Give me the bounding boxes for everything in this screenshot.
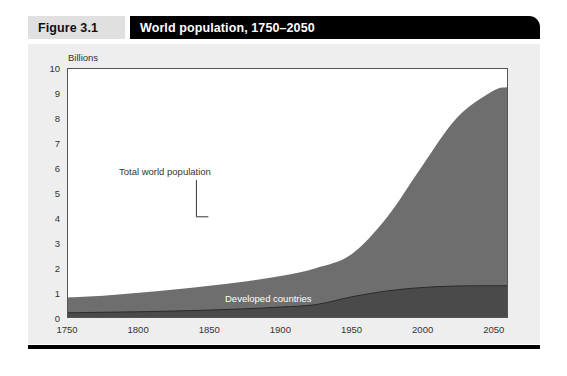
figure-number-box: Figure 3.1 xyxy=(28,16,125,39)
y-tick-label: 1 xyxy=(55,288,60,299)
figure-container: Figure 3.1 World population, 1750–2050 B… xyxy=(0,0,567,376)
x-axis-tick-labels: 1750180018501900195020002050 xyxy=(67,324,508,340)
x-tick-label: 2050 xyxy=(483,324,504,335)
x-tick-label: 2000 xyxy=(412,324,433,335)
y-tick-label: 5 xyxy=(55,188,60,199)
y-tick-label: 9 xyxy=(55,88,60,99)
annotation-developed-countries: Developed countries xyxy=(225,293,312,304)
y-tick-label: 4 xyxy=(55,213,60,224)
y-tick-label: 2 xyxy=(55,263,60,274)
y-tick-label: 8 xyxy=(55,113,60,124)
y-tick-label: 6 xyxy=(55,163,60,174)
annotation-total-world-population: Total world population xyxy=(119,166,211,177)
x-tick-label: 1950 xyxy=(341,324,362,335)
y-tick-label: 3 xyxy=(55,238,60,249)
y-axis-tick-labels: 012345678910 xyxy=(28,68,64,318)
y-tick-label: 10 xyxy=(49,63,60,74)
figure-title-label: World population, 1750–2050 xyxy=(130,21,315,35)
area-chart-svg xyxy=(68,69,507,317)
y-tick-label: 7 xyxy=(55,138,60,149)
x-tick-label: 1850 xyxy=(199,324,220,335)
area-developing-countries xyxy=(68,87,507,317)
x-tick-label: 1800 xyxy=(128,324,149,335)
figure-bottom-rule xyxy=(28,345,540,349)
y-axis-unit-label: Billions xyxy=(68,52,98,63)
annotation-leader-line xyxy=(196,180,208,217)
x-tick-label: 1750 xyxy=(56,324,77,335)
x-tick-label: 1900 xyxy=(270,324,291,335)
figure-body-panel: Billions 012345678910 Total world popula… xyxy=(28,44,540,344)
plot-area: Total world population Developing countr… xyxy=(67,68,508,318)
y-tick-label: 0 xyxy=(55,313,60,324)
annotation-developing-countries: Developing countries xyxy=(225,259,314,270)
figure-number-label: Figure 3.1 xyxy=(28,21,98,35)
figure-title-bar: World population, 1750–2050 xyxy=(130,16,540,39)
